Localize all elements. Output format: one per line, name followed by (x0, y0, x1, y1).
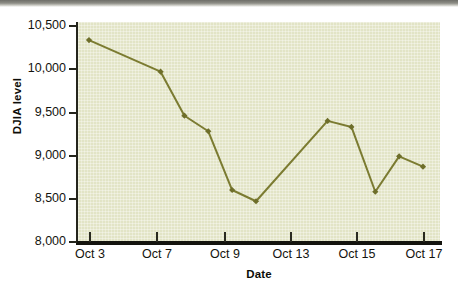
y-axis-tick (69, 241, 77, 243)
y-axis-tick (69, 198, 77, 200)
djia-line-chart: 10,500 10,000 9,500 9,000 8,500 8,000 Oc… (0, 0, 458, 289)
y-axis-tick (69, 155, 77, 157)
x-axis-tick-label: Oct 9 (190, 248, 260, 261)
x-axis-tick-label: Oct 3 (55, 248, 125, 261)
plot-area (78, 22, 440, 242)
x-axis-tick (356, 232, 358, 242)
x-axis-tick (423, 232, 425, 242)
x-axis-tick (224, 232, 226, 242)
y-axis-tick-label: 8,000 (0, 235, 66, 248)
y-axis-tick (69, 25, 77, 27)
x-axis-tick-label: Oct 15 (322, 248, 392, 261)
x-axis-tick-label: Oct 7 (122, 248, 192, 261)
x-axis-tick (156, 232, 158, 242)
y-axis-tick-label: 9,000 (0, 149, 66, 162)
y-axis-line (76, 22, 78, 243)
y-axis-tick-label: 10,500 (0, 19, 66, 32)
x-axis-tick-label: Oct 17 (389, 248, 458, 261)
x-axis-tick-label: Oct 13 (256, 248, 326, 261)
x-axis-tick (89, 232, 91, 242)
y-axis-tick (69, 112, 77, 114)
x-axis-title: Date (78, 268, 440, 280)
x-axis-tick (290, 232, 292, 242)
y-axis-title: DJIA level (11, 56, 23, 156)
x-axis-line (76, 241, 442, 245)
y-axis-tick-label: 8,500 (0, 192, 66, 205)
y-axis-tick-label: 10,000 (0, 62, 66, 75)
y-axis-tick (69, 68, 77, 70)
y-axis-tick-label: 9,500 (0, 106, 66, 119)
